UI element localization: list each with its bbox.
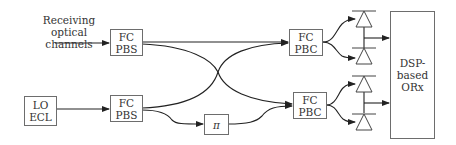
pbc-bottom-box: FC PBC [293,92,327,119]
receiver-line2: based [397,69,428,81]
dsp-receiver-box: DSP- based ORx [390,11,435,139]
pi-symbol: π [213,119,220,131]
photodiode-2-icon [352,48,376,64]
pbc-top-split-lower [323,42,355,58]
pbc-top-line1: FC [298,31,313,43]
input-label: Receiving optical channels [26,14,112,50]
pbc-top-box: FC PBC [289,29,323,56]
pbs-bottom-to-pi-curve [142,110,203,124]
pi-to-pbc-bottom-curve [228,106,292,124]
optical-receiver-diagram: Receiving optical channels LO ECL FC PBS… [0,0,456,145]
pbc-bottom-line1: FC [302,94,317,106]
photodiode-4-icon [352,114,376,130]
pbs-top-line2: PBS [116,43,138,55]
phase-shifter-box: π [204,114,229,135]
pbs-bottom-to-pbc-top-curve [142,43,288,108]
lo-ecl-box: LO ECL [24,96,57,126]
pbs-bottom-line2: PBS [116,109,138,121]
receiver-line3: ORx [401,81,423,93]
pbc-top-line2: PBC [294,43,317,55]
pbc-bottom-split-upper [327,84,355,105]
input-label-line2: channels [26,38,112,50]
photodiode-3-icon [352,76,376,92]
pbs-top-line1: FC [119,31,134,43]
pbs-bottom-line1: FC [119,97,134,109]
lo-line1: LO [33,99,49,111]
pbc-bottom-line2: PBC [298,106,321,118]
pbs-bottom-box: FC PBS [110,95,143,122]
pbc-top-split-upper [323,19,355,42]
input-label-line1: Receiving optical [26,14,112,38]
lo-line2: ECL [29,111,52,123]
pbc-bottom-split-lower [327,105,355,122]
photodiode-1-icon [352,11,376,27]
pbs-top-box: FC PBS [110,29,143,56]
receiver-line1: DSP- [400,57,426,69]
